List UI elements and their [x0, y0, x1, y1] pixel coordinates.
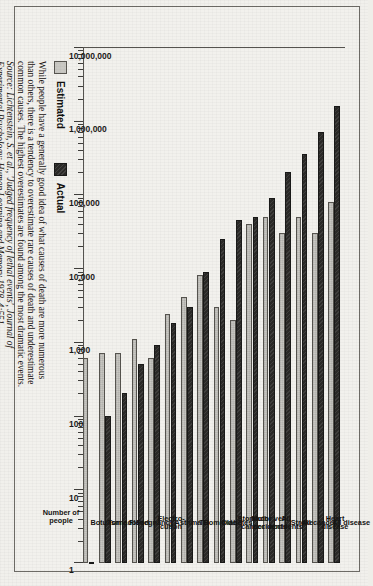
- axis-tick-label: 1,000,000: [69, 124, 107, 134]
- bar-estimated: [132, 339, 138, 563]
- axis-tick-minor: [78, 211, 83, 212]
- bar-actual: [253, 217, 259, 563]
- figure-frame: 10,000,0001,000,000100,00010,0001,000100…: [14, 6, 360, 572]
- axis-tick-major: [74, 342, 83, 343]
- caption-body: While people have a generally good idea …: [15, 61, 47, 391]
- bar-estimated: [328, 202, 334, 563]
- bar-actual: [302, 154, 308, 563]
- axis-tick-minor: [78, 284, 83, 285]
- axis-tick-label: 10: [69, 493, 78, 503]
- axis-tick-minor: [78, 371, 83, 372]
- axis-tick-minor: [78, 76, 83, 77]
- bar-estimated: [83, 358, 89, 563]
- legend: Estimated Actual: [54, 61, 67, 213]
- bar-actual: [122, 393, 128, 563]
- bar-estimated: [263, 217, 269, 563]
- bar-actual: [334, 106, 340, 563]
- bar-estimated: [312, 233, 318, 563]
- axis-tick-minor: [78, 86, 83, 87]
- axis-tick-label: 100: [69, 419, 83, 429]
- legend-swatch-estimated: [54, 61, 67, 74]
- bar-estimated: [246, 224, 252, 563]
- bar-actual: [318, 132, 324, 563]
- axis-tick-minor: [78, 364, 83, 365]
- axis-tick-minor: [78, 99, 83, 100]
- axis-tick-minor: [78, 224, 83, 225]
- axis-tick-minor: [78, 233, 83, 234]
- legend-swatch-actual: [54, 163, 67, 176]
- axis-tick-label: 1: [69, 565, 74, 575]
- axis-tick-minor: [78, 501, 83, 502]
- bar-estimated: [115, 353, 121, 563]
- caption-source: Source: Lichtenstein, S. et al., 'Judged…: [0, 61, 15, 391]
- axis-tick-minor: [78, 307, 83, 308]
- axis-tick-minor: [78, 246, 83, 247]
- axis-tick-major: [74, 416, 83, 417]
- axis-tick-minor: [78, 63, 83, 64]
- axis-tick-minor: [78, 143, 83, 144]
- axis-tick-minor: [78, 445, 83, 446]
- axis-tick-minor: [78, 297, 83, 298]
- bar-actual: [236, 220, 242, 563]
- axis-tick-minor: [78, 454, 83, 455]
- axis-tick-minor: [78, 541, 83, 542]
- bar-estimated: [148, 358, 154, 563]
- axis-tick-minor: [78, 69, 83, 70]
- axis-tick-label: 10,000,000: [69, 51, 112, 61]
- bar-estimated: [296, 217, 302, 563]
- axis-tick-minor: [78, 496, 83, 497]
- axis-tick-major: [74, 194, 83, 195]
- axis-tick-minor: [78, 358, 83, 359]
- legend-label-estimated: Estimated: [55, 81, 66, 129]
- bar-estimated: [99, 353, 105, 563]
- axis-tick-minor: [78, 290, 83, 291]
- axis-tick-major: [74, 562, 83, 563]
- axis-tick-minor: [78, 150, 83, 151]
- axis-tick-minor: [78, 432, 83, 433]
- plot-area: [83, 47, 345, 563]
- axis-tick-major: [74, 47, 83, 48]
- bar-actual: [89, 562, 95, 564]
- axis-tick-label: 100,000: [69, 198, 100, 208]
- axis-tick-minor: [78, 159, 83, 160]
- legend-item-estimated: Estimated: [54, 61, 67, 129]
- axis-tick-minor: [78, 320, 83, 321]
- axis-tick-minor: [78, 467, 83, 468]
- axis-title-number-of-people: Number of people: [41, 509, 81, 525]
- axis-tick-major: [74, 268, 83, 269]
- legend-item-actual: Actual: [54, 163, 67, 214]
- axis-tick-minor: [78, 493, 83, 494]
- figure-caption: While people have a generally good idea …: [0, 61, 47, 391]
- value-axis-line: [83, 47, 345, 48]
- axis-tick-minor: [78, 438, 83, 439]
- axis-tick-minor: [78, 380, 83, 381]
- axis-tick-label: 1,000: [69, 345, 90, 355]
- axis-tick-major: [74, 121, 83, 122]
- axis-tick-label: 10,000: [69, 272, 95, 282]
- axis-tick-minor: [78, 172, 83, 173]
- axis-tick-minor: [78, 528, 83, 529]
- axis-tick-minor: [78, 506, 83, 507]
- legend-label-actual: Actual: [55, 183, 66, 214]
- category-label: All disease: [329, 519, 373, 527]
- bar-actual: [285, 172, 291, 563]
- bar-actual: [138, 364, 144, 563]
- axis-tick-minor: [78, 393, 83, 394]
- bar-actual: [220, 239, 226, 563]
- axis-tick-minor: [78, 137, 83, 138]
- axis-tick-minor: [78, 217, 83, 218]
- axis-tick-major: [74, 489, 83, 490]
- bar-actual: [105, 416, 111, 563]
- bar-actual: [269, 198, 275, 563]
